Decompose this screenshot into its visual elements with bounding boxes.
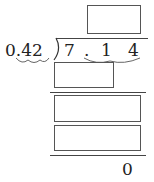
- subtraction-line-1: [50, 92, 146, 93]
- dividend-digit-1: 7: [64, 42, 75, 59]
- remainder: 0: [122, 161, 133, 178]
- quotient-answer-box[interactable]: [87, 5, 141, 34]
- divisor-shift-arc-icon: [14, 56, 50, 66]
- division-bracket-icon: [50, 37, 62, 61]
- product-1-answer-box[interactable]: [54, 62, 114, 88]
- division-bar: [56, 38, 148, 39]
- difference-1-answer-box[interactable]: [54, 95, 141, 122]
- subtraction-line-2: [50, 155, 146, 156]
- product-2-answer-box[interactable]: [54, 125, 141, 151]
